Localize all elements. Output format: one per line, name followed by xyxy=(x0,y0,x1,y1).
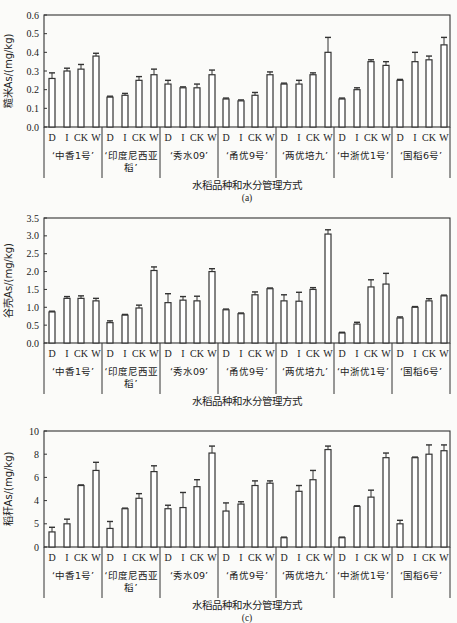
bar xyxy=(122,509,128,547)
treatment-label: W xyxy=(439,552,449,563)
bar xyxy=(209,453,215,547)
bar xyxy=(397,318,403,343)
bar-group xyxy=(165,269,215,343)
y-tick-label: 3.0 xyxy=(27,230,40,241)
variety-label: ‘中浙优1号’ xyxy=(337,150,389,161)
variety-label: ‘两优培九’ xyxy=(282,570,328,581)
bar-group xyxy=(223,481,273,547)
variety-label: ‘中浙优1号’ xyxy=(337,366,389,377)
variety-label: 稻’ xyxy=(124,378,137,389)
treatment-label: I xyxy=(65,132,68,143)
bar-group xyxy=(49,53,99,127)
treatment-label: I xyxy=(239,132,242,143)
y-tick-label: 5 xyxy=(34,518,39,529)
treatment-label: W xyxy=(265,552,275,563)
bar xyxy=(252,295,258,343)
treatment-label: D xyxy=(48,132,55,143)
treatment-label: D xyxy=(338,348,345,359)
treatment-label: I xyxy=(413,348,416,359)
bar xyxy=(194,88,200,127)
variety-label: ‘两优培九’ xyxy=(282,150,328,161)
treatment-label: CK xyxy=(74,552,89,563)
treatment-label: I xyxy=(123,552,126,563)
variety-label: ‘中香1号’ xyxy=(52,150,94,161)
y-tick-label: 0.0 xyxy=(27,122,40,133)
variety-label: ‘甬优9号’ xyxy=(226,570,268,581)
bar xyxy=(136,308,142,343)
bar xyxy=(296,491,302,547)
bar-group xyxy=(107,466,157,547)
treatment-label: CK xyxy=(248,348,263,359)
treatment-label: D xyxy=(222,552,229,563)
treatment-label: I xyxy=(413,552,416,563)
y-tick-label: 0.4 xyxy=(27,47,40,58)
bar-group xyxy=(397,37,447,127)
y-tick-label: 8 xyxy=(34,449,39,460)
bar xyxy=(252,486,258,547)
bar xyxy=(238,314,244,343)
treatment-label: D xyxy=(222,132,229,143)
bar xyxy=(180,508,186,547)
bar-group xyxy=(107,69,157,127)
variety-label: ‘印度尼西亚 xyxy=(104,150,157,161)
bar xyxy=(64,298,70,343)
bar xyxy=(412,62,418,127)
treatment-label: CK xyxy=(248,552,263,563)
treatment-label: D xyxy=(48,348,55,359)
bar xyxy=(441,296,447,343)
bar xyxy=(180,88,186,127)
bar xyxy=(122,95,128,127)
bar xyxy=(180,300,186,343)
treatment-label: CK xyxy=(248,132,263,143)
treatment-label: W xyxy=(207,552,217,563)
bar xyxy=(93,56,99,127)
bar xyxy=(339,333,345,343)
variety-label: 稻’ xyxy=(124,582,137,593)
treatment-label: W xyxy=(381,348,391,359)
bar xyxy=(49,532,55,547)
bar-group xyxy=(49,296,99,343)
bar xyxy=(151,271,157,344)
treatment-label: I xyxy=(355,552,358,563)
treatment-label: I xyxy=(297,132,300,143)
treatment-label: CK xyxy=(364,552,379,563)
bar-group xyxy=(339,453,389,547)
treatment-label: W xyxy=(439,348,449,359)
treatment-label: CK xyxy=(190,348,205,359)
y-tick-label: 10 xyxy=(29,426,39,437)
bar xyxy=(64,524,70,547)
bar-group xyxy=(223,288,273,343)
treatment-label: D xyxy=(396,132,403,143)
y-tick-label: 0.0 xyxy=(27,338,40,349)
bar xyxy=(339,538,345,547)
treatment-label: D xyxy=(396,348,403,359)
bar xyxy=(78,486,84,547)
y-tick-label: 1.0 xyxy=(27,302,40,313)
treatment-label: CK xyxy=(422,348,437,359)
y-tick-label: 4 xyxy=(34,495,39,506)
y-tick-label: 0.3 xyxy=(27,66,40,77)
bar-group xyxy=(339,273,389,343)
treatment-label: I xyxy=(355,132,358,143)
y-tick-label: 0.5 xyxy=(27,28,40,39)
bar xyxy=(64,71,70,127)
y-tick-label: 0.1 xyxy=(27,103,40,114)
bar xyxy=(136,498,142,547)
treatment-label: I xyxy=(65,552,68,563)
variety-label: ‘国稻6号’ xyxy=(400,366,442,377)
treatment-label: I xyxy=(239,552,242,563)
bar xyxy=(426,301,432,343)
treatment-label: W xyxy=(149,132,159,143)
treatment-label: D xyxy=(280,348,287,359)
variety-label: ‘中浙优1号’ xyxy=(337,570,389,581)
bar xyxy=(238,101,244,127)
bar xyxy=(296,84,302,127)
treatment-label: D xyxy=(106,132,113,143)
treatment-label: D xyxy=(48,552,55,563)
variety-label: 稻’ xyxy=(124,162,137,173)
bar-group xyxy=(281,37,331,127)
bar xyxy=(397,524,403,547)
y-axis-label: 稻秆As/(mg/kg) xyxy=(2,451,14,526)
bar xyxy=(281,538,287,547)
treatment-label: I xyxy=(181,552,184,563)
